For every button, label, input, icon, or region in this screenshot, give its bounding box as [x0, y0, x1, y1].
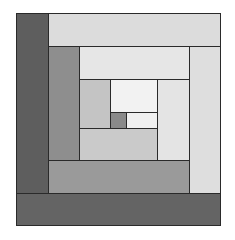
- outer-left-dark-strip: [16, 13, 49, 194]
- outer-bottom-dark-strip: [16, 193, 221, 226]
- inner-right-white-strip: [126, 112, 158, 129]
- middle-right-light-strip: [157, 79, 190, 161]
- outer-top-light-strip: [48, 13, 221, 47]
- middle-top-light-strip: [79, 46, 190, 80]
- middle-left-gray-strip: [48, 46, 80, 161]
- inner-left-light-strip: [79, 79, 111, 129]
- inner-top-white-strip: [110, 79, 158, 113]
- log-cabin-quilt-block: [0, 0, 235, 240]
- inner-bottom-light-strip: [79, 128, 158, 161]
- outer-right-light-strip: [189, 46, 221, 194]
- middle-bottom-gray-strip: [48, 160, 190, 194]
- center-square: [110, 112, 127, 129]
